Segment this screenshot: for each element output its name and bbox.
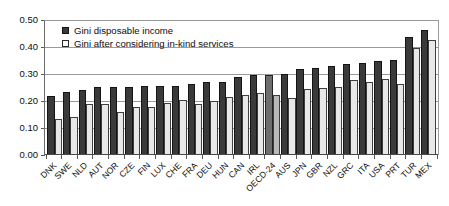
bar-in-kind-services: [242, 95, 249, 155]
dark-square-icon: [62, 27, 69, 34]
y-tick-label: 0.20: [0, 96, 38, 105]
bar-disposable-income: [188, 84, 195, 155]
legend-label: Gini disposable income: [74, 24, 173, 37]
bar-disposable-income: [234, 77, 241, 155]
bar-in-kind-services: [133, 107, 140, 155]
bar-in-kind-services: [335, 87, 342, 155]
bar-in-kind-services: [382, 79, 389, 155]
y-tick-label: 0.50: [0, 15, 38, 24]
bar-disposable-income: [203, 82, 210, 155]
bar-disposable-income: [328, 66, 335, 155]
bar-in-kind-services: [148, 107, 155, 155]
bar-disposable-income: [281, 74, 288, 155]
bar-disposable-income: [63, 92, 70, 155]
bar-in-kind-services: [195, 104, 202, 155]
bar-in-kind-services: [164, 103, 171, 155]
bar-in-kind-services: [86, 104, 93, 155]
bar-disposable-income: [343, 64, 350, 155]
bar-disposable-income: [312, 68, 319, 155]
bar-in-kind-services: [210, 101, 217, 155]
bar-in-kind-services: [117, 112, 124, 155]
gini-bar-chart: 0.50 0.40 0.30 0.20 0.10 0.00 DNKSWENLDA…: [0, 0, 449, 206]
y-tick-label: 0.30: [0, 69, 38, 78]
legend-label: Gini after considering in-kind services: [74, 37, 233, 50]
bar-in-kind-services: [273, 95, 280, 155]
legend-item-in-kind-services: Gini after considering in-kind services: [62, 37, 233, 50]
bar-disposable-income: [94, 87, 101, 155]
bar-group: [343, 21, 359, 155]
bar-in-kind-services: [428, 40, 435, 155]
light-square-icon: [62, 40, 69, 47]
bar-group: [327, 21, 343, 155]
bar-in-kind-services: [304, 89, 311, 155]
bar-disposable-income: [250, 75, 257, 155]
legend-item-disposable-income: Gini disposable income: [62, 24, 233, 37]
bar-disposable-income: [359, 63, 366, 155]
bar-disposable-income: [405, 37, 412, 155]
bar-in-kind-services: [397, 84, 404, 155]
bar-group: [405, 21, 421, 155]
bar-disposable-income: [374, 61, 381, 156]
bar-disposable-income: [172, 86, 179, 155]
bar-disposable-income: [141, 86, 148, 155]
bar-disposable-income: [219, 82, 226, 155]
bar-in-kind-services: [366, 82, 373, 155]
x-axis-labels: DNKSWENLDAUTNORCZEFINLUXCHEFRADEUHUNCANI…: [44, 160, 439, 206]
x-label-cell: MEX: [421, 160, 437, 206]
bar-group: [234, 21, 250, 155]
bar-in-kind-services: [319, 88, 326, 155]
bar-disposable-income: [390, 60, 397, 155]
bar-group: [265, 21, 281, 155]
y-axis: 0.50 0.40 0.30 0.20 0.10 0.00: [0, 20, 44, 155]
bar-group: [421, 21, 437, 155]
bar-group: [249, 21, 265, 155]
bar-in-kind-services: [179, 100, 186, 155]
bar-in-kind-services: [55, 119, 62, 155]
bar-in-kind-services: [413, 48, 420, 155]
bar-group: [47, 21, 63, 155]
bar-disposable-income: [156, 86, 163, 155]
bar-in-kind-services: [350, 80, 357, 155]
y-tick-label: 0.00: [0, 150, 38, 159]
bar-in-kind-services: [257, 93, 264, 155]
bar-group: [280, 21, 296, 155]
y-tick-label: 0.40: [0, 42, 38, 51]
bar-disposable-income: [265, 75, 272, 155]
bar-in-kind-services: [101, 104, 108, 155]
bar-disposable-income: [421, 30, 428, 155]
y-tick-label: 0.10: [0, 123, 38, 132]
bar-disposable-income: [125, 87, 132, 155]
bar-in-kind-services: [226, 97, 233, 155]
bar-group: [389, 21, 405, 155]
bar-disposable-income: [47, 96, 54, 155]
bar-disposable-income: [79, 90, 86, 155]
bar-in-kind-services: [70, 117, 77, 155]
bar-group: [358, 21, 374, 155]
chart-legend: Gini disposable income Gini after consid…: [62, 24, 233, 50]
bar-group: [374, 21, 390, 155]
bar-disposable-income: [110, 87, 117, 155]
bar-group: [312, 21, 328, 155]
